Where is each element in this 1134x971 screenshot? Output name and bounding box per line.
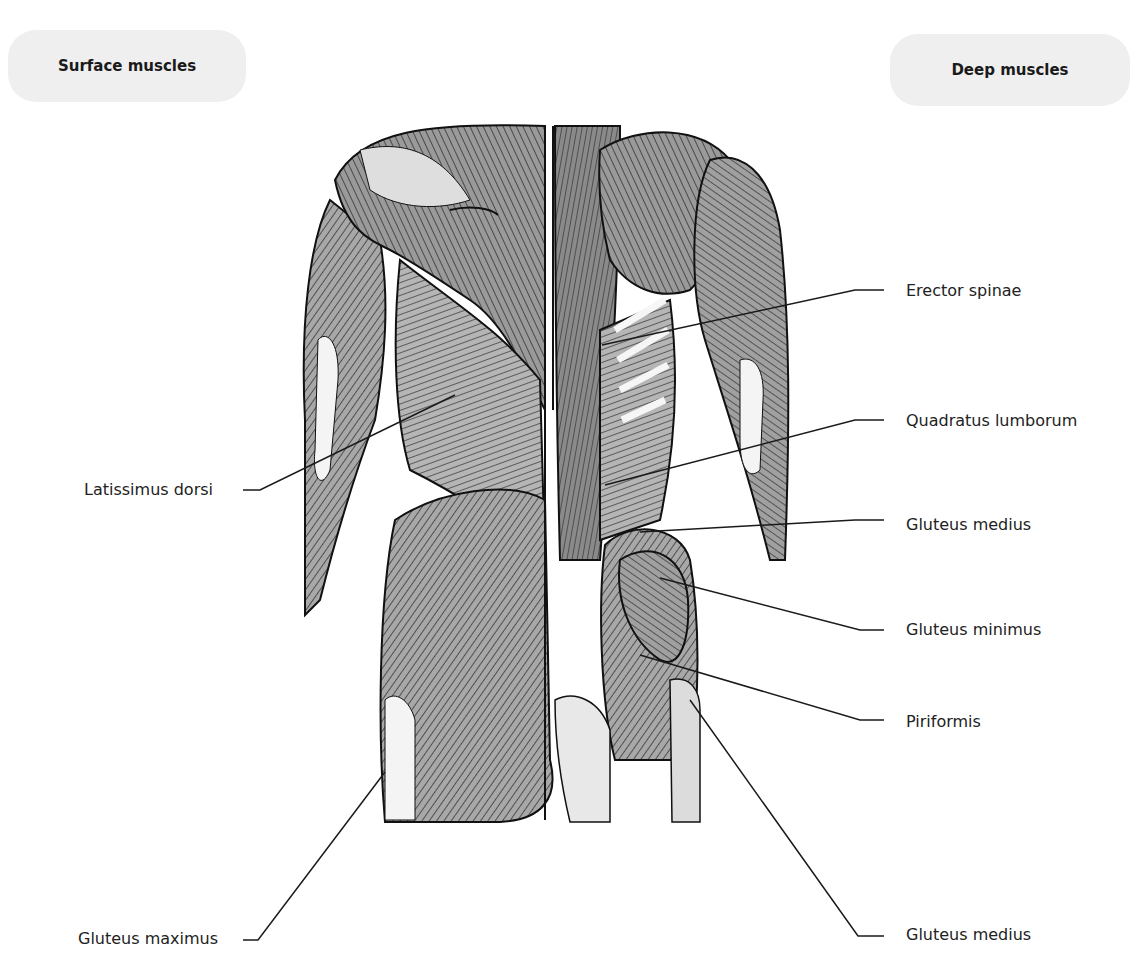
left-gluteus-maximus [381, 490, 553, 822]
quadratus-lumborum-muscle [600, 300, 675, 540]
label-gluteus-medius-lower: Gluteus medius [906, 925, 1031, 944]
label-gluteus-minimus: Gluteus minimus [906, 620, 1041, 639]
label-piriformis: Piriformis [906, 712, 981, 731]
label-quadratus-lumborum: Quadratus lumborum [906, 411, 1077, 430]
left-arm [304, 200, 386, 615]
label-gluteus-maximus: Gluteus maximus [78, 929, 218, 948]
label-erector-spinae: Erector spinae [906, 281, 1021, 300]
right-arm [694, 158, 788, 560]
label-gluteus-medius-upper: Gluteus medius [906, 515, 1031, 534]
label-latissimus-dorsi: Latissimus dorsi [84, 480, 213, 499]
